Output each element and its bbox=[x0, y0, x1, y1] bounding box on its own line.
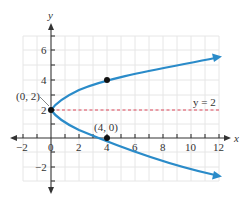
svg-text:2: 2 bbox=[41, 104, 47, 116]
point-4-4 bbox=[104, 77, 110, 83]
point-label-vertex: (0, 2) bbox=[16, 90, 40, 103]
svg-text:8: 8 bbox=[160, 141, 166, 153]
svg-text:2: 2 bbox=[76, 141, 82, 153]
x-axis bbox=[14, 134, 226, 138]
svg-text:−2: −2 bbox=[35, 161, 47, 173]
parabola-chart: y x −2 0 2 4 6 8 10 12 6 4 2 −2 y = 2 (0… bbox=[0, 0, 247, 199]
lower-arrow-icon bbox=[212, 171, 222, 180]
svg-text:4: 4 bbox=[41, 74, 47, 86]
svg-text:12: 12 bbox=[213, 141, 224, 153]
x-axis-label: x bbox=[233, 132, 239, 144]
point-label-x-intercept: (4, 0) bbox=[94, 121, 118, 134]
line-label-y2: y = 2 bbox=[193, 96, 216, 108]
point-vertex bbox=[48, 107, 54, 113]
y-axis-up-arrow-icon bbox=[48, 23, 54, 30]
y-axis-down-arrow-icon bbox=[48, 187, 54, 194]
point-x-intercept bbox=[104, 135, 110, 141]
svg-text:10: 10 bbox=[185, 141, 197, 153]
svg-text:−2: −2 bbox=[16, 141, 28, 153]
svg-text:6: 6 bbox=[41, 44, 47, 56]
x-axis-right-arrow-icon bbox=[224, 135, 231, 141]
svg-text:0: 0 bbox=[48, 141, 54, 153]
upper-arrow-icon bbox=[212, 54, 222, 63]
y-axis-label: y bbox=[47, 9, 53, 21]
parabola-curve bbox=[51, 58, 215, 175]
